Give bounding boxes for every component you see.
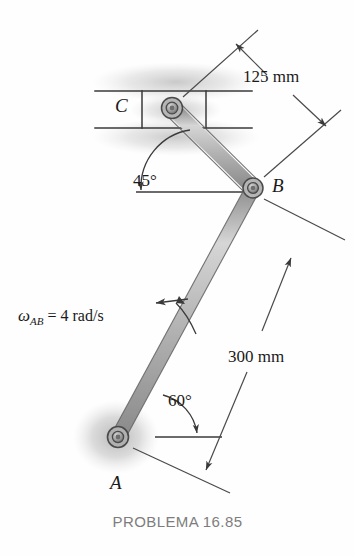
dimension-label-300mm: 300 mm	[228, 348, 284, 365]
omega-value: 4 rad/s	[61, 307, 104, 324]
linkage-diagram	[0, 0, 355, 556]
label-point-A: A	[110, 473, 122, 492]
dim-arrow-125-lower	[293, 95, 326, 126]
dim-arrow-300-upper	[262, 258, 291, 331]
omega-subscript: AB	[30, 315, 43, 327]
angular-velocity-label: ωAB = 4 rad/s	[18, 307, 104, 327]
label-point-B: B	[272, 176, 284, 195]
extension-line-B-125	[264, 110, 341, 177]
label-point-C: C	[115, 96, 128, 115]
pin-joint-A	[108, 427, 129, 448]
angle-label-45: 45°	[133, 172, 157, 189]
omega-equals: =	[47, 307, 56, 324]
pin-joint-B	[243, 178, 263, 198]
omega-symbol: ω	[18, 306, 30, 325]
mechanics-figure: C B A 125 mm 300 mm 45° 60° ωAB = 4 rad/…	[0, 0, 355, 556]
angle-label-60: 60°	[168, 392, 192, 409]
dim-arrow-300-lower	[206, 372, 247, 470]
extension-line-A-300	[133, 448, 230, 493]
figure-caption: PROBLEMA 16.85	[0, 513, 355, 530]
pin-joint-C	[162, 98, 183, 119]
support-shading-group	[73, 62, 260, 474]
extension-line-B-300	[264, 199, 345, 240]
dimension-label-125mm: 125 mm	[243, 68, 299, 85]
